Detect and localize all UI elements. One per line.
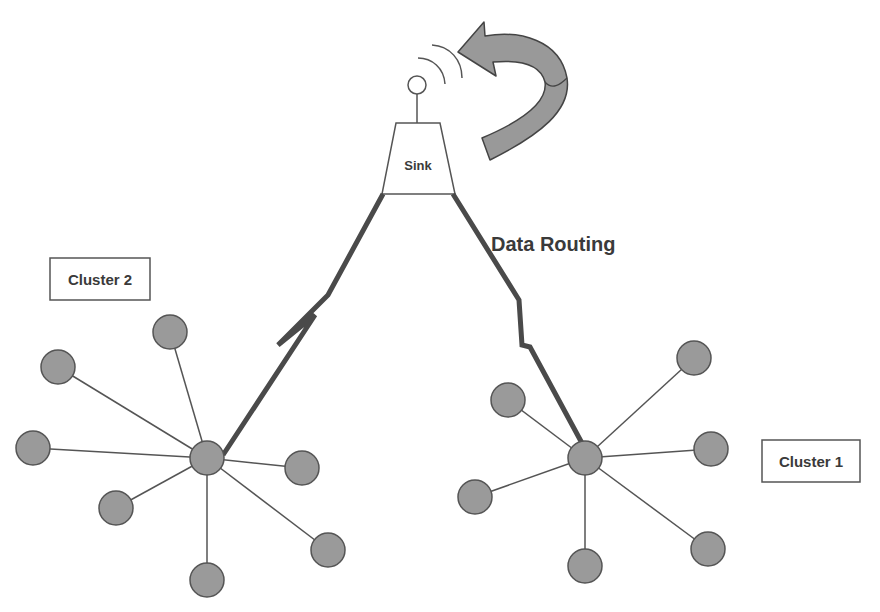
cluster1-member-node [568, 549, 602, 583]
cluster1-label-box: Cluster 1 [762, 440, 860, 482]
sink-node: Sink [382, 123, 455, 194]
sink-label: Sink [404, 158, 432, 173]
cluster2-member-node [41, 350, 75, 384]
cluster2-member-node [190, 563, 224, 597]
cluster2-member-node [285, 451, 319, 485]
routing-label: Data Routing [491, 233, 615, 255]
cluster1-member-node [694, 432, 728, 466]
cluster2-member-node [311, 533, 345, 567]
cluster1-nodes [458, 341, 728, 583]
cluster2-member-node [153, 315, 187, 349]
wsn-diagram: Sink Data Routing [0, 0, 880, 612]
cluster2-member-node [99, 491, 133, 525]
cluster2-member-node [16, 431, 50, 465]
signal-waves-icon [418, 45, 462, 84]
antenna-icon [408, 76, 426, 123]
cluster2-links [33, 332, 328, 580]
cluster1-member-node [691, 532, 725, 566]
cluster2-head-node [190, 441, 224, 475]
rotation-arrow-icon [458, 22, 568, 160]
cluster1-head-node [568, 441, 602, 475]
cluster1-member-node [458, 480, 492, 514]
cluster1-label: Cluster 1 [779, 453, 843, 470]
cluster1-member-node [491, 383, 525, 417]
cluster2-label-box: Cluster 2 [50, 258, 150, 300]
cluster2-label: Cluster 2 [68, 271, 132, 288]
routing-link-cluster2 [223, 194, 383, 455]
cluster1-member-node [677, 341, 711, 375]
